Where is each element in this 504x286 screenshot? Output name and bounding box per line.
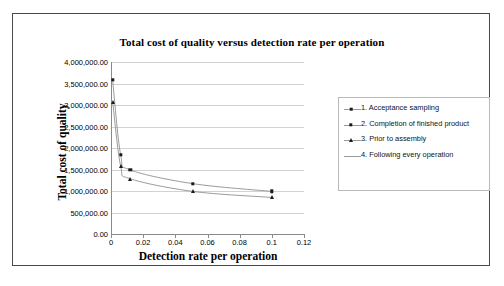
- legend-item-3: 3. Prior to assembly: [344, 135, 484, 145]
- data-point: [111, 100, 115, 104]
- y-tick-label: 2,000,000.00: [64, 144, 108, 153]
- data-point: [119, 164, 123, 168]
- legend-item-1: 1. Acceptance sampling: [344, 104, 484, 114]
- data-point: [119, 153, 122, 156]
- y-tick-label: 3,000,000.00: [64, 101, 108, 110]
- y-tick-label: 1,000,000.00: [64, 187, 108, 196]
- y-tick-label: 3,500,000.00: [64, 79, 108, 88]
- x-tick-mark: [143, 234, 144, 238]
- x-tick-mark: [240, 234, 241, 238]
- y-tick-label: 2,500,000.00: [64, 122, 108, 131]
- chart-frame: Total cost of quality versus detection r…: [12, 13, 490, 266]
- y-tick-label: 4,000,000.00: [64, 58, 108, 67]
- data-point: [270, 195, 274, 199]
- x-tick-mark: [208, 234, 209, 238]
- legend-marker-triangle-icon: [349, 138, 353, 142]
- legend-key-triangle-icon: [344, 136, 361, 145]
- x-tick-label: 0: [109, 238, 113, 247]
- data-point: [129, 168, 132, 171]
- data-point: [191, 182, 194, 185]
- legend-item-4: 4. Following every operation: [344, 151, 484, 161]
- x-axis-tick-labels: 00.020.040.060.080.10.12: [111, 238, 304, 250]
- y-tick-label: 500,000.00: [70, 208, 108, 217]
- y-tick-label: 1,500,000.00: [64, 165, 108, 174]
- y-axis-tick-labels: 0.00500,000.001,000,000.001,500,000.002,…: [13, 62, 108, 234]
- legend-key-diamond-icon: [344, 105, 361, 114]
- x-tick-label: 0.1: [267, 238, 277, 247]
- data-point: [128, 177, 132, 181]
- legend-label: 3. Prior to assembly: [361, 135, 426, 144]
- data-points-layer: [111, 62, 304, 234]
- x-tick-label: 0.06: [200, 238, 215, 247]
- legend-label: 1. Acceptance sampling: [361, 104, 439, 113]
- legend-line: [344, 156, 361, 157]
- chart-title: Total cost of quality versus detection r…: [13, 36, 491, 48]
- data-point: [191, 189, 195, 193]
- figure-caption: [14, 276, 234, 285]
- x-tick-label: 0.04: [168, 238, 183, 247]
- legend-key-square-icon: [344, 121, 361, 130]
- legend-line: [344, 109, 361, 110]
- y-tick-label: 0.00: [93, 230, 108, 239]
- chart-legend: 1. Acceptance sampling2. Completion of f…: [338, 97, 490, 191]
- legend-item-2: 2. Completion of finished product: [344, 120, 484, 130]
- legend-label: 2. Completion of finished product: [361, 120, 469, 129]
- legend-key-line-icon: [344, 152, 361, 161]
- data-point: [270, 190, 273, 193]
- plot-area: [111, 62, 304, 234]
- x-tick-mark: [111, 234, 112, 238]
- data-point: [111, 78, 114, 81]
- legend-marker-square-icon: [349, 123, 352, 126]
- legend-label: 4. Following every operation: [361, 151, 453, 160]
- figure-container: Total cost of quality versus detection r…: [0, 0, 504, 286]
- x-tick-mark: [304, 234, 305, 238]
- x-tick-label: 0.12: [297, 238, 312, 247]
- x-tick-label: 0.08: [232, 238, 247, 247]
- x-axis-title: Detection rate per operation: [73, 250, 343, 262]
- x-tick-mark: [175, 234, 176, 238]
- x-tick-label: 0.02: [136, 238, 151, 247]
- x-tick-mark: [272, 234, 273, 238]
- legend-marker-diamond-icon: [350, 108, 353, 111]
